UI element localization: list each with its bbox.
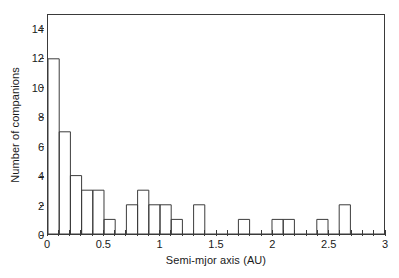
- y-tick-mark: [40, 235, 44, 236]
- x-axis-ticks: 00.511.522.53: [47, 236, 385, 252]
- x-minor-tick-mark: [148, 230, 149, 236]
- x-minor-tick-mark: [351, 230, 352, 236]
- x-minor-tick-mark: [294, 230, 295, 236]
- x-minor-tick-mark: [58, 230, 59, 236]
- x-minor-tick-mark: [204, 230, 205, 236]
- x-minor-tick-mark: [227, 230, 228, 236]
- x-tick-label: 1.5: [208, 238, 223, 250]
- x-tick-label: 0.5: [96, 238, 111, 250]
- x-minor-tick-mark: [182, 230, 183, 236]
- x-minor-tick-mark: [306, 230, 307, 236]
- x-minor-tick-mark: [317, 230, 318, 236]
- x-minor-tick-mark: [193, 230, 194, 236]
- y-tick-mark: [40, 176, 44, 177]
- y-tick-mark: [40, 58, 44, 59]
- x-minor-tick-mark: [80, 230, 81, 236]
- x-minor-tick-mark: [137, 230, 138, 236]
- x-tick-label: 1: [157, 238, 163, 250]
- x-minor-tick-mark: [159, 230, 160, 236]
- x-minor-tick-mark: [69, 230, 70, 236]
- x-minor-tick-mark: [373, 230, 374, 236]
- x-minor-tick-mark: [249, 230, 250, 236]
- x-minor-tick-mark: [283, 230, 284, 236]
- x-minor-tick-mark: [385, 230, 386, 236]
- x-minor-tick-mark: [103, 230, 104, 236]
- x-minor-tick-mark: [328, 230, 329, 236]
- x-minor-tick-mark: [238, 230, 239, 236]
- x-minor-tick-mark: [170, 230, 171, 236]
- y-tick-mark: [40, 117, 44, 118]
- x-tick-label: 3: [382, 238, 388, 250]
- histogram-bars: [48, 15, 384, 234]
- bar-outline: [48, 59, 350, 234]
- x-minor-tick-mark: [216, 230, 217, 236]
- x-minor-tick-mark: [261, 230, 262, 236]
- x-minor-tick-mark: [125, 230, 126, 236]
- plot-area: [47, 14, 385, 235]
- y-tick-mark: [40, 205, 44, 206]
- x-minor-tick-mark: [92, 230, 93, 236]
- y-axis-label-text: Number of companions: [9, 67, 21, 183]
- x-tick-label: 0: [44, 238, 50, 250]
- histogram-figure: Number of companions 02468101214 00.511.…: [0, 0, 399, 278]
- x-minor-tick-mark: [272, 230, 273, 236]
- x-minor-tick-mark: [339, 230, 340, 236]
- x-axis-label-text: Semi-mjor axis (AU): [166, 254, 266, 266]
- x-axis-label: Semi-mjor axis (AU): [47, 254, 385, 266]
- x-minor-tick-mark: [114, 230, 115, 236]
- x-tick-label: 2: [269, 238, 275, 250]
- y-axis-ticks: 02468101214: [23, 14, 44, 235]
- x-minor-tick-mark: [362, 230, 363, 236]
- y-tick-mark: [40, 146, 44, 147]
- x-minor-tick-mark: [47, 230, 48, 236]
- y-axis-label: Number of companions: [6, 14, 24, 236]
- y-tick-mark: [40, 28, 44, 29]
- y-tick-mark: [40, 87, 44, 88]
- x-tick-label: 2.5: [321, 238, 336, 250]
